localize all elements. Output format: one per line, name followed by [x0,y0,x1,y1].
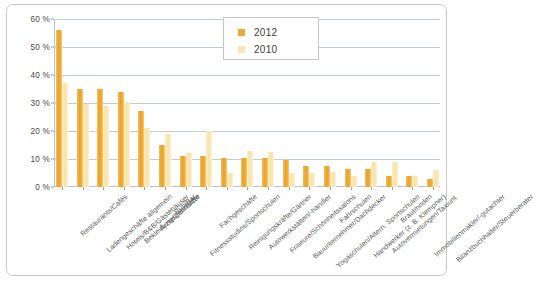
chart-legend: 2012 2010 [223,17,319,60]
legend-label-2012: 2012 [254,27,277,38]
bar-2010 [124,102,130,187]
x-tick-mark [103,187,104,190]
legend-swatch-2012 [238,29,245,36]
bar-group [200,19,212,187]
y-tick-label: 20 % [31,127,50,136]
x-tick-mark [165,187,166,190]
y-tick-label: 0 % [35,183,50,192]
bar-2010 [62,83,68,187]
bar-2010 [186,153,192,187]
bar-group [427,19,439,187]
legend-label-2010: 2010 [254,44,277,55]
bar-2010 [371,162,377,187]
x-tick-mark [83,187,84,190]
bar-2010 [227,173,233,187]
bar-2010 [206,131,212,187]
legend-swatch-2010 [238,46,245,53]
x-tick-mark [206,187,207,190]
bar-group [324,19,336,187]
bar-2010 [165,134,171,187]
x-axis-label: Restaurants/Cafés [79,193,129,238]
x-tick-mark [227,187,228,190]
chart-frame: 0 %10 %20 %30 %40 %50 %60 % Restaurants/… [6,4,447,276]
x-tick-mark [247,187,248,190]
x-tick-mark [412,187,413,190]
bar-group [56,19,68,187]
legend-item: 2010 [238,41,318,58]
bar-group [77,19,89,187]
bar-group [118,19,130,187]
y-tick-label: 40 % [31,71,50,80]
legend-item: 2012 [238,24,318,41]
x-tick-mark [371,187,372,190]
x-tick-mark [351,187,352,190]
y-tick-label: 30 % [31,99,50,108]
x-tick-mark [186,187,187,190]
bar-group [386,19,398,187]
y-tick-label: 60 % [31,15,50,24]
y-tick-label: 10 % [31,155,50,164]
bar-group [138,19,150,187]
y-tick-label: 50 % [31,43,50,52]
bar-2010 [144,128,150,187]
bar-2010 [247,151,253,187]
x-tick-mark [144,187,145,190]
bar-2010 [268,152,274,187]
bar-group [406,19,418,187]
bar-2010 [351,176,357,187]
x-tick-mark [309,187,310,190]
bar-group [345,19,357,187]
x-tick-mark [330,187,331,190]
bar-2010 [392,162,398,187]
bar-2010 [412,176,418,187]
bar-group [180,19,192,187]
bar-2010 [433,170,439,187]
x-tick-mark [392,187,393,190]
bar-group [97,19,109,187]
x-tick-mark [289,187,290,190]
bar-group [159,19,171,187]
x-tick-mark [268,187,269,190]
x-tick-mark [124,187,125,190]
x-tick-mark [433,187,434,190]
x-tick-mark [62,187,63,190]
bar-2010 [103,106,109,187]
bar-2010 [83,104,89,187]
bar-2010 [289,173,295,187]
bar-group [365,19,377,187]
bar-2010 [330,172,336,187]
bar-2010 [309,173,315,187]
